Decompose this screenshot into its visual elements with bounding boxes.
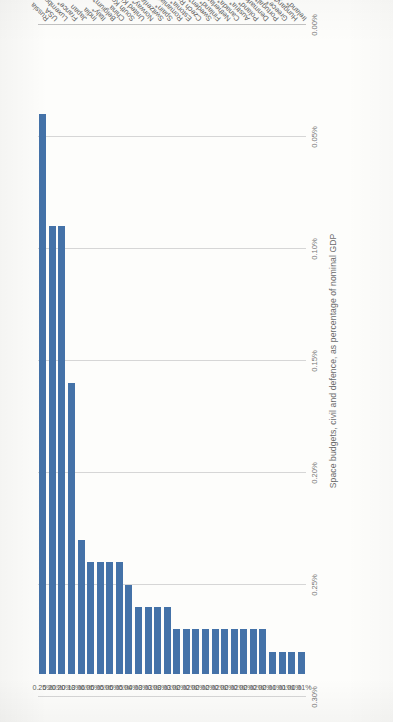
bar (77, 540, 84, 674)
bar-row: 0.03% (144, 25, 151, 697)
bar (96, 562, 103, 674)
bar-row: 0.05% (115, 25, 122, 697)
bar-row: 0.03% (154, 25, 161, 697)
x-tick-label: 0.15% (310, 350, 319, 372)
bar-row: 0.02% (240, 25, 247, 697)
bar (221, 629, 228, 674)
bar (144, 607, 151, 674)
chart-plot-area: 0.30%0.25%0.20%0.15%0.10%0.05%0.00% 0.25… (32, 11, 362, 711)
bar (288, 652, 295, 674)
bar-value-label: 0.01% (291, 683, 311, 692)
bar-row: 0.02% (221, 25, 228, 697)
bar (135, 607, 142, 674)
bar (240, 629, 247, 674)
bar-series: 0.25%0.20%0.20%0.13%0.06%0.05%0.05%0.05%… (38, 25, 306, 697)
bar-row: 0.02% (249, 25, 256, 697)
bar-row: 0.02% (230, 25, 237, 697)
bar-row: 0.01% (278, 25, 285, 697)
bar-row: 0.20% (48, 25, 55, 697)
bar-row: 0.01% (269, 25, 276, 697)
bar (68, 383, 75, 674)
bar (182, 629, 189, 674)
bar (58, 226, 65, 674)
bar (230, 629, 237, 674)
bar-row: 0.25% (39, 25, 46, 697)
bar-row: 0.02% (173, 25, 180, 697)
bar (115, 562, 122, 674)
bar (39, 114, 46, 674)
x-tick-label: 0.05% (310, 126, 319, 148)
bar-row: 0.13% (68, 25, 75, 697)
bar-row: 0.02% (259, 25, 266, 697)
bar (297, 652, 304, 674)
bar-row: 0.01% (288, 25, 295, 697)
bar-row: 0.05% (87, 25, 94, 697)
x-axis-title: Space budgets, civil and defence, as per… (328, 11, 338, 711)
bar (163, 607, 170, 674)
bar (125, 585, 132, 675)
bar (259, 629, 266, 674)
bar-row: 0.03% (163, 25, 170, 697)
bar-row: 0.05% (106, 25, 113, 697)
bar (278, 652, 285, 674)
figure-stage: 0.30%0.25%0.20%0.15%0.10%0.05%0.00% 0.25… (0, 0, 393, 722)
bar (154, 607, 161, 674)
bar (269, 652, 276, 674)
bar (48, 226, 55, 674)
bar-row: 0.01% (297, 25, 304, 697)
x-tick-label: 0.00% (310, 14, 319, 36)
bar-row: 0.06% (77, 25, 84, 697)
plot-region: 0.30%0.25%0.20%0.15%0.10%0.05%0.00% 0.25… (38, 25, 306, 697)
bar (173, 629, 180, 674)
bar-row: 0.02% (192, 25, 199, 697)
bar (211, 629, 218, 674)
bar-row: 0.02% (211, 25, 218, 697)
bar-row: 0.05% (96, 25, 103, 697)
bar-row: 0.20% (58, 25, 65, 697)
bar-row: 0.03% (135, 25, 142, 697)
bar-chart: 0.30%0.25%0.20%0.15%0.10%0.05%0.00% 0.25… (32, 11, 362, 711)
bar (202, 629, 209, 674)
bar-row: 0.04% (125, 25, 132, 697)
x-tick-label: 0.10% (310, 238, 319, 260)
bar (192, 629, 199, 674)
bar (106, 562, 113, 674)
x-tick-label: 0.20% (310, 462, 319, 484)
bar-row: 0.02% (182, 25, 189, 697)
x-tick-label: 0.25% (310, 574, 319, 596)
bar-row: 0.02% (202, 25, 209, 697)
bar (249, 629, 256, 674)
bar (87, 562, 94, 674)
